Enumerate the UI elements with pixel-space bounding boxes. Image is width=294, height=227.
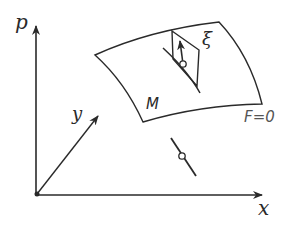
y-axis-label: y [72,105,82,123]
p-axis-label: p [15,12,28,32]
x-axis-label: x [258,198,269,218]
y-axis [37,116,98,194]
surface-m-label: M [146,97,159,112]
trajectory-point [179,153,185,159]
xi-vector-label: ξ [202,30,212,48]
tangent-plane [172,31,199,86]
diagram-canvas: p x y M F=0 ξ [0,0,294,227]
surface-m [95,22,262,122]
surface-point [180,61,186,67]
surface-equation-label: F=0 [244,110,275,125]
